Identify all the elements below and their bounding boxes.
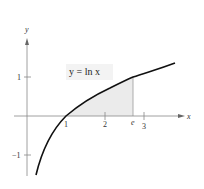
shaded-area <box>66 77 133 116</box>
tick-label-xe: e <box>131 118 135 127</box>
x-axis-label: x <box>186 112 191 121</box>
y-axis-arrow-icon <box>25 38 29 45</box>
tick-label-x3: 3 <box>142 122 146 131</box>
equation-label: y = ln x <box>69 66 100 77</box>
chart: y x 1 −1 1 2 e 3 y = ln x <box>0 0 204 189</box>
tick-label-x2: 2 <box>103 120 107 129</box>
y-axis-label: y <box>24 25 29 34</box>
tick-label-ym1: −1 <box>12 151 21 160</box>
x-axis-arrow-icon <box>178 114 185 118</box>
tick-label-x1: 1 <box>64 120 68 129</box>
tick-label-y1: 1 <box>17 73 21 82</box>
